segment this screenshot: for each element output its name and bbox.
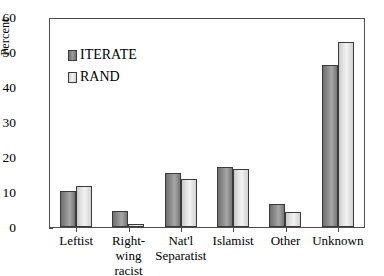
x-axis-tick-mark xyxy=(286,228,287,232)
y-axis-tick-label: 0 xyxy=(0,223,16,233)
bar-rand xyxy=(285,212,301,227)
x-axis-tick-label: Other xyxy=(259,233,311,276)
y-axis-tick-label: 30 xyxy=(0,118,16,128)
x-axis-tick-mark xyxy=(76,228,77,232)
y-axis-tick-label: 40 xyxy=(0,83,16,93)
bar-chart: Percent 6050403020100 LeftistRight-wing … xyxy=(0,0,384,276)
bar-iterate xyxy=(322,65,338,227)
x-axis-tick-label: Right-wing racist xyxy=(102,233,154,276)
x-axis-tick-mark xyxy=(233,228,234,232)
x-axis-tick-mark xyxy=(338,228,339,232)
bar-rand xyxy=(233,169,249,227)
x-axis-tick-labels: LeftistRight-wing racistNat'l Separatist… xyxy=(50,233,364,276)
x-axis-tick-label: Unknown xyxy=(312,233,364,276)
legend-label-rand: RAND xyxy=(80,69,120,85)
bar-rand xyxy=(338,42,354,227)
y-axis-tick-label: 20 xyxy=(0,153,16,163)
chart-legend: ITERATE RAND xyxy=(68,45,137,89)
x-axis-tick-label: Leftist xyxy=(50,233,102,276)
y-axis-tick-label: 50 xyxy=(0,48,16,58)
bar-iterate xyxy=(60,191,76,227)
bar-iterate xyxy=(217,167,233,227)
legend-swatch-iterate-icon xyxy=(68,50,77,61)
legend-swatch-rand-icon xyxy=(68,72,77,83)
x-axis-tick-mark xyxy=(129,228,130,232)
legend-label-iterate: ITERATE xyxy=(80,47,137,63)
bar-group xyxy=(217,19,249,227)
bar-iterate xyxy=(165,173,181,227)
bar-group xyxy=(269,19,301,227)
bar-iterate xyxy=(112,211,128,227)
bar-rand xyxy=(181,179,197,227)
y-axis-tick-label: 60 xyxy=(0,13,16,23)
y-axis-tick-label: 10 xyxy=(0,188,16,198)
bar-rand xyxy=(76,186,92,227)
x-axis-tick-mark xyxy=(181,228,182,232)
legend-item-rand: RAND xyxy=(68,67,137,87)
bar-group xyxy=(165,19,197,227)
bar-rand xyxy=(128,224,144,227)
legend-item-iterate: ITERATE xyxy=(68,45,137,65)
x-axis-tick-label: Nat'l Separatist xyxy=(155,233,207,276)
bar-group xyxy=(322,19,354,227)
bar-iterate xyxy=(269,204,285,227)
x-axis-tick-label: Islamist xyxy=(207,233,259,276)
y-axis-tick-mark xyxy=(49,228,53,229)
